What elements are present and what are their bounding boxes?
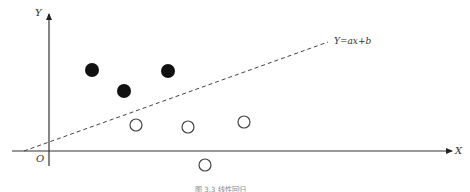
open-data-point [130,119,142,131]
open-data-point [238,116,250,128]
filled-data-point [85,63,99,77]
regression-diagram [0,0,470,192]
line-equation-label: Y=ax+b [334,36,371,46]
figure-caption: 图 3.3 线性回归 [195,184,246,192]
filled-points [85,63,175,98]
open-data-point [182,121,194,133]
filled-data-point [117,84,131,98]
open-data-point [199,159,211,171]
x-axis-label: X [455,145,462,156]
y-axis-label: Y [35,7,42,18]
regression-line [24,42,328,151]
origin-label: O [36,153,44,164]
filled-data-point [161,64,175,78]
open-points [130,116,250,171]
